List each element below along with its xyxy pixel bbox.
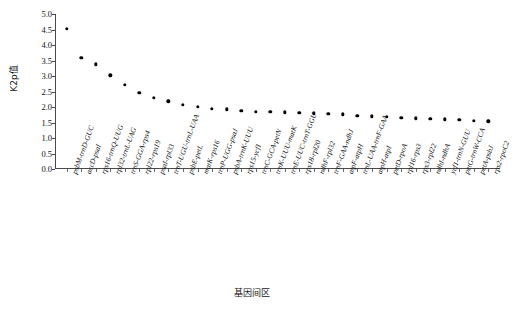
data-point [94, 63, 97, 66]
y-tick-mark [52, 138, 55, 139]
y-tick-label: 3.5 [26, 57, 52, 65]
data-point [327, 112, 330, 115]
data-point [399, 116, 402, 119]
data-point [196, 105, 199, 108]
data-point [428, 117, 431, 120]
y-axis-tick-labels: 0.00.51.01.52.02.53.03.54.04.55.0 [24, 0, 52, 316]
y-tick-label: 3.0 [26, 72, 52, 80]
y-tick-mark [52, 45, 55, 46]
data-point [269, 110, 272, 113]
y-tick-label: 2.0 [26, 103, 52, 111]
data-point [79, 56, 82, 59]
y-tick-mark [52, 169, 55, 170]
y-tick-mark [52, 76, 55, 77]
x-axis-tick-labels: psbM-trnD-GUCaccD-psaIrps16-trnQ-UUGrpl3… [55, 172, 500, 277]
data-point [109, 74, 112, 77]
data-point [138, 91, 141, 94]
y-tick-label: 4.5 [26, 26, 52, 34]
data-point [283, 111, 286, 114]
y-tick-mark [52, 107, 55, 108]
x-axis-title: 基因间区 [0, 286, 503, 299]
data-point [181, 103, 184, 106]
data-point [123, 83, 126, 86]
data-point [298, 111, 301, 114]
y-tick-label: 0.0 [26, 165, 52, 173]
y-tick-mark [52, 154, 55, 155]
y-axis-title: K2p值 [7, 44, 20, 114]
y-axis-line [55, 14, 56, 169]
data-point [370, 115, 373, 118]
data-point [341, 112, 344, 115]
data-point [225, 107, 228, 110]
data-point [356, 114, 359, 117]
y-tick-mark [52, 92, 55, 93]
data-point [472, 119, 475, 122]
data-point [414, 116, 417, 119]
data-point [443, 118, 446, 121]
y-tick-mark [52, 14, 55, 15]
data-point [210, 107, 213, 110]
data-point [254, 110, 257, 113]
y-tick-label: 0.5 [26, 150, 52, 158]
data-point [487, 120, 490, 123]
y-tick-label: 4.0 [26, 41, 52, 49]
y-tick-label: 2.5 [26, 88, 52, 96]
y-tick-label: 1.5 [26, 119, 52, 127]
data-point [167, 100, 170, 103]
data-point [152, 96, 155, 99]
y-tick-mark [52, 30, 55, 31]
y-tick-mark [52, 123, 55, 124]
y-tick-label: 1.0 [26, 134, 52, 142]
y-tick-mark [52, 61, 55, 62]
data-point [458, 118, 461, 121]
y-tick-label: 5.0 [26, 10, 52, 18]
data-point [65, 27, 68, 30]
data-point [239, 109, 242, 112]
